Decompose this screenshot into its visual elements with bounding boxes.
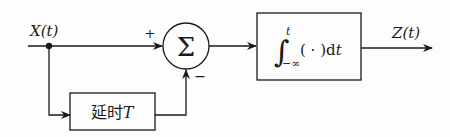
block-diagram: X(t) 延时T Σ + − ∫ t −∞ ( · )dt Z(t) bbox=[0, 0, 450, 137]
integrand: ( · )dt bbox=[300, 41, 343, 59]
sigma-symbol: Σ bbox=[177, 32, 195, 62]
integral-lower-limit: −∞ bbox=[282, 57, 300, 70]
branch-line bbox=[49, 46, 70, 115]
minus-sign: − bbox=[194, 68, 206, 84]
diagram-svg: X(t) 延时T Σ + − ∫ t −∞ ( · )dt Z(t) bbox=[0, 0, 450, 137]
plus-sign: + bbox=[145, 26, 156, 41]
input-label: X(t) bbox=[29, 22, 59, 40]
output-label: Z(t) bbox=[391, 24, 420, 42]
delay-label: 延时T bbox=[91, 103, 135, 122]
feedback-line bbox=[155, 70, 186, 115]
integral-upper-limit: t bbox=[286, 25, 291, 38]
